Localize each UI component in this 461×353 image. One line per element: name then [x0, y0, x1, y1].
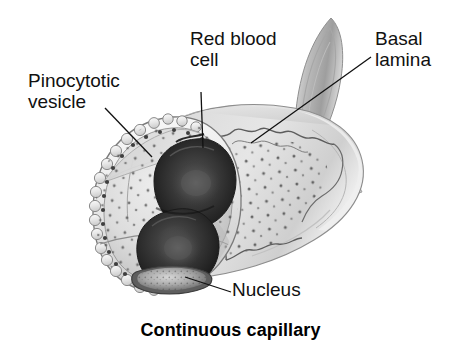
label-pinocytotic-vesicle: Pinocytotic vesicle [28, 70, 120, 112]
label-red-blood-cell: Red blood cell [190, 28, 277, 70]
label-nucleus: Nucleus [232, 279, 301, 300]
endothelial-nucleus [132, 266, 212, 294]
figure-caption: Continuous capillary [0, 320, 461, 341]
label-basal-lamina: Basal lamina [375, 28, 431, 70]
